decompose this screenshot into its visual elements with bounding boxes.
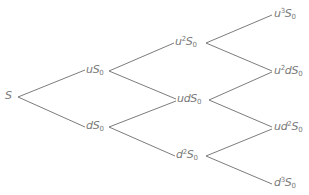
node-uud-mid: d [285,64,292,77]
node-ud-pre: ud [177,92,190,105]
node-udd-sub: 0 [298,126,302,134]
node-ddd: d3S0 [274,177,296,189]
edge-uu-uud [206,43,272,71]
node-uuu: u3S0 [274,8,296,20]
edge-u-ud [109,71,176,99]
edge-d-ud [109,101,176,127]
node-d-sub: 0 [99,125,103,133]
node-ud-sub: 0 [197,98,201,106]
edge-s-u [18,70,85,97]
edge-ud-udd [209,100,272,127]
edge-d-dd [109,127,175,156]
node-uu-base: S [186,35,193,48]
node-uu-pre: u [175,35,182,48]
node-dd-sub: 0 [194,154,198,162]
node-dd: d2S0 [176,149,198,161]
node-u-pre: u [86,63,93,76]
edge-dd-udd [206,129,272,156]
edge-u-uu [109,43,174,71]
node-dd-pre: d [176,148,183,161]
node-root: S [5,90,12,102]
edge-uu-uuu [206,15,272,43]
node-uud-sub: 0 [298,70,302,78]
node-ud: udS0 [177,93,201,105]
node-u: uS0 [86,64,104,76]
node-dd-base: S [187,148,194,161]
node-ddd-pre: d [274,176,281,189]
node-u-sub: 0 [99,69,103,77]
node-uud-pre: u [274,64,281,77]
node-d-pre: d [86,119,93,132]
tree-edges [0,0,309,195]
node-ddd-sub: 0 [292,182,296,190]
edge-s-d [18,97,85,127]
node-uuu-sub: 0 [292,13,296,21]
node-uuu-pre: u [274,7,281,20]
node-uuu-base: S [285,7,292,20]
node-ddd-base: S [285,176,292,189]
node-d: dS0 [86,120,104,132]
node-udd: ud2S0 [274,121,302,133]
node-uud: u2dS0 [274,65,302,77]
node-udd-pre: ud [274,120,287,133]
edge-ud-uud [209,72,272,100]
node-uu-sub: 0 [193,41,197,49]
node-root-base: S [5,89,12,102]
edge-dd-ddd [206,156,272,184]
node-uu: u2S0 [175,36,197,48]
